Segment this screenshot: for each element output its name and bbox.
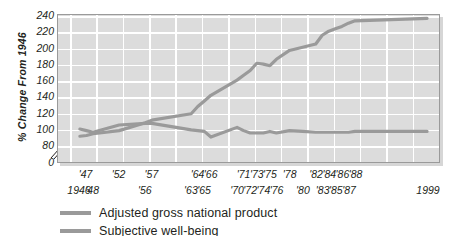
y-tick-label: 180 (2, 59, 54, 69)
x-tick-label: '72 (243, 184, 257, 196)
legend-swatch-icon (60, 211, 91, 215)
series-lines (58, 15, 439, 162)
x-tick-label: '83 (316, 184, 330, 196)
series-line-gnp (80, 18, 427, 136)
x-tick-label: '70 (230, 184, 244, 196)
x-tick-label: '63 (184, 184, 198, 196)
legend-label: Adjusted gross national product (99, 206, 277, 220)
x-axis-tick-labels-top: '47'52'57'64'66'71'73'75'78'82'84'86'88 (0, 168, 455, 182)
y-tick-label: 220 (2, 26, 54, 36)
x-tick-label: '78 (283, 168, 297, 180)
x-tick-label: '57 (145, 168, 159, 180)
x-tick-label: '84 (322, 168, 336, 180)
y-tick-label: 200 (2, 43, 54, 53)
x-tick-label: '82 (309, 168, 323, 180)
x-tick-label: '88 (349, 168, 363, 180)
x-tick-label: '64 (191, 168, 205, 180)
x-tick-label: '87 (342, 184, 356, 196)
x-tick-label: '75 (263, 168, 277, 180)
x-axis-tick-labels-bottom: 1946'48'56'63'65'70'72'74'76'80'83'85'87… (0, 184, 455, 198)
y-tick-label: 100 (2, 124, 54, 134)
x-tick-label: '76 (270, 184, 284, 196)
y-tick-label: 240 (2, 10, 54, 20)
legend-label: Subjective well-being (99, 224, 219, 236)
y-tick-label: 0 (2, 157, 54, 167)
x-tick-label: '56 (138, 184, 152, 196)
plot-area (57, 14, 440, 163)
y-tick-label: 140 (2, 91, 54, 101)
x-tick-label: '48 (85, 184, 99, 196)
y-tick-label: 80 (2, 140, 54, 150)
x-tick-label: '65 (197, 184, 211, 196)
x-tick-label: '71 (237, 168, 251, 180)
series-line-wellbeing (80, 123, 427, 137)
x-tick-label: '86 (336, 168, 350, 180)
x-tick-label: '66 (204, 168, 218, 180)
gridline-vertical (439, 15, 440, 162)
x-tick-label: '80 (296, 184, 310, 196)
legend-item: Subjective well-being (60, 223, 455, 236)
y-tick-label: 120 (2, 108, 54, 118)
x-tick-label: '73 (250, 168, 264, 180)
legend-swatch-icon (60, 229, 91, 233)
chart-legend: Adjusted gross national productSubjectiv… (60, 205, 455, 236)
x-tick-label: '74 (257, 184, 271, 196)
legend-item: Adjusted gross national product (60, 205, 455, 221)
y-axis-tick-labels: 080100120140160180200220240 (0, 0, 54, 175)
x-tick-label: '85 (329, 184, 343, 196)
chart-figure: % Change From 1946 080100120140160180200… (0, 0, 455, 236)
x-tick-label: '52 (112, 168, 126, 180)
x-tick-label: 1999 (416, 184, 439, 196)
y-tick-label: 160 (2, 75, 54, 85)
x-tick-label: '47 (79, 168, 93, 180)
